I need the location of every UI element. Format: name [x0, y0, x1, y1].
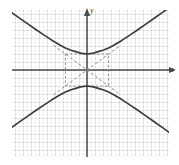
grid-layer	[12, 10, 169, 157]
x-axis-label: x	[170, 66, 174, 74]
hyperbola-figure: y x	[0, 0, 179, 165]
major-grid	[12, 10, 169, 157]
y-axis-label: y	[90, 7, 94, 15]
plot-canvas	[0, 0, 179, 165]
